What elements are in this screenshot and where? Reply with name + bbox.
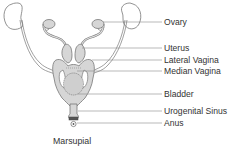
left-kidney: [4, 3, 23, 29]
label-ovary: Ovary: [164, 17, 187, 27]
label-bladder: Bladder: [164, 89, 194, 99]
marsupial-reproductive-diagram: [0, 0, 235, 153]
label-median-vagina: Median Vagina: [164, 66, 221, 76]
bladder: [64, 73, 84, 95]
label-uterus: Uterus: [164, 43, 189, 53]
label-urogenital-sinus: Urogenital Sinus: [164, 106, 227, 116]
left-uterus: [62, 44, 72, 63]
diagram-caption: Marsupial: [53, 136, 91, 146]
label-lateral-vagina: Lateral Vagina: [164, 55, 219, 65]
right-uterus: [75, 44, 85, 63]
label-anus: Anus: [164, 118, 184, 128]
